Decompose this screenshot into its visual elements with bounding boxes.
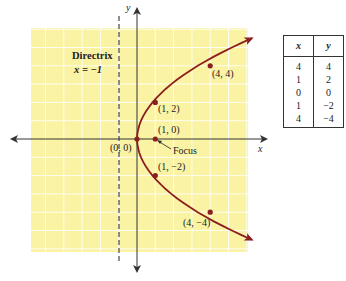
label-1-neg2: (1, −2) <box>158 161 185 172</box>
table-row: 1 −2 <box>284 99 344 112</box>
table-row: 4 −4 <box>284 112 344 128</box>
table-header-x: x <box>284 36 314 57</box>
label-4-4: (4, 4) <box>212 68 234 79</box>
x-axis-label: x <box>258 143 262 154</box>
table-row: 1 2 <box>284 73 344 86</box>
y-axis-label: y <box>126 2 130 13</box>
table-cell: 1 <box>284 73 314 86</box>
label-0-0: (0, 0) <box>110 142 132 153</box>
values-table: x y 4 4 1 2 0 0 1 −2 4 −4 <box>283 35 344 128</box>
label-1-0: (1, 0) <box>158 124 180 135</box>
label-4-neg4: (4, −4) <box>183 217 210 228</box>
table-header-row: x y <box>284 36 344 57</box>
focus-label: Focus <box>173 145 197 156</box>
point-4-neg4 <box>208 210 213 215</box>
table-cell: −4 <box>314 112 344 128</box>
parabola-graph: y x Directrix x = −1 (4, 4) (1, 2) (1, 0… <box>0 0 280 281</box>
point-origin <box>134 136 139 141</box>
table-cell: 4 <box>284 112 314 128</box>
table-header-y: y <box>314 36 344 57</box>
graph-svg <box>0 0 280 281</box>
table-row: 4 4 <box>284 57 344 74</box>
table-cell: 0 <box>314 86 344 99</box>
directrix-equation-text: x = −1 <box>74 64 102 75</box>
table-row: 0 0 <box>284 86 344 99</box>
directrix-equation: x = −1 <box>74 64 102 75</box>
table-cell: 4 <box>314 57 344 74</box>
point-1-neg2 <box>153 173 158 178</box>
table-cell: 1 <box>284 99 314 112</box>
label-1-2: (1, 2) <box>158 103 180 114</box>
directrix-title: Directrix <box>72 50 113 61</box>
table-cell: 0 <box>284 86 314 99</box>
table-cell: −2 <box>314 99 344 112</box>
table-cell: 4 <box>284 57 314 74</box>
table-cell: 2 <box>314 73 344 86</box>
point-focus <box>153 136 158 141</box>
